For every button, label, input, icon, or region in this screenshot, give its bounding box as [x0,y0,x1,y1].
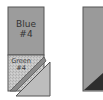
green-piece-label: Green #4 [8,58,34,72]
diagram-svg [0,0,103,100]
green-number: #4 [8,65,34,72]
blue-number: #4 [8,30,44,40]
blue-piece-label: Blue #4 [8,20,44,40]
quilt-diagram: Blue #4 Green #4 [0,0,103,100]
